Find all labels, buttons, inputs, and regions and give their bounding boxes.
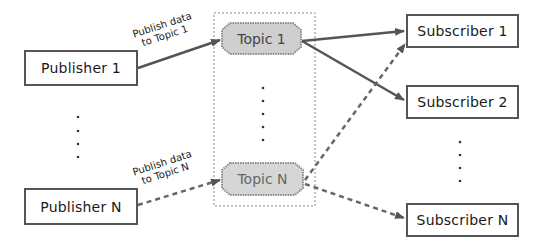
topic-n-label-wrap: Topic N (222, 163, 303, 195)
subscriber-2-label: Subscriber 2 (417, 94, 507, 110)
pubsub-diagram: Publisher 1 Publisher N Topic 1 Topic N … (0, 0, 542, 250)
topic-1-label-wrap: Topic 1 (222, 23, 301, 54)
topic-n-label: Topic N (237, 171, 287, 187)
subscriber-n-box[interactable]: Subscriber N (406, 203, 519, 237)
subscribers-ellipsis (459, 141, 462, 183)
subscriber-1-box[interactable]: Subscriber 1 (406, 14, 519, 48)
publisher-n-box[interactable]: Publisher N (24, 188, 138, 225)
publisher-n-label: Publisher N (40, 199, 121, 215)
edge-topic1-sub1 (302, 31, 404, 41)
subscriber-1-label: Subscriber 1 (417, 23, 507, 39)
subscriber-n-label: Subscriber N (417, 212, 509, 228)
edge-topic1-sub2 (302, 41, 404, 100)
topic-1-label: Topic 1 (237, 31, 286, 47)
subscriber-2-box[interactable]: Subscriber 2 (406, 85, 519, 119)
publishers-ellipsis (77, 116, 80, 159)
topics-ellipsis (262, 87, 265, 142)
edge-topicN-subN (305, 184, 404, 218)
edge-topicN-sub1 (305, 44, 405, 180)
publisher-1-box[interactable]: Publisher 1 (24, 50, 138, 86)
publisher-1-label: Publisher 1 (41, 60, 121, 76)
